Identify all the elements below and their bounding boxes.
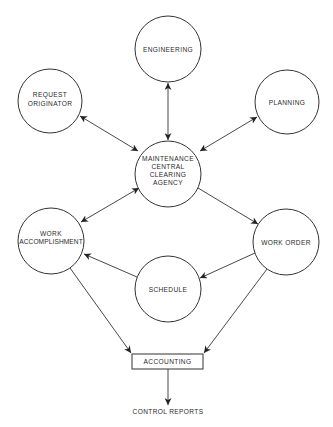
node-label: WORK ORDER xyxy=(261,239,311,246)
node-engineering: ENGINEERING xyxy=(135,16,201,82)
node-work-order: WORK ORDER xyxy=(253,209,319,275)
edge-request-originator-clearing-agency xyxy=(80,116,138,151)
node-label: PLANNING xyxy=(269,99,306,106)
maintenance-flow-diagram: ENGINEERING REQUEST ORIGINATOR PLANNING … xyxy=(0,0,333,427)
node-accounting: ACCOUNTING xyxy=(132,354,203,369)
node-work-accomplishment: WORK ACCOMPLISHMENT xyxy=(18,208,84,274)
node-schedule: SCHEDULE xyxy=(135,256,201,322)
node-label: ORIGINATOR xyxy=(28,100,73,107)
node-control-reports: CONTROL REPORTS xyxy=(133,408,204,415)
edge-work-order-accounting xyxy=(204,269,267,353)
node-label: SCHEDULE xyxy=(149,286,188,293)
node-label: CONTROL REPORTS xyxy=(133,408,204,415)
edge-work-order-schedule xyxy=(200,253,255,278)
node-label: REQUEST xyxy=(33,91,67,99)
node-planning: PLANNING xyxy=(255,70,319,134)
node-label: ACCOUNTING xyxy=(144,358,192,365)
node-label: ACCOMPLISHMENT xyxy=(19,238,83,245)
edge-schedule-work-accomplishment xyxy=(84,254,137,277)
node-label: AGENCY xyxy=(153,179,183,186)
node-label: WORK xyxy=(40,230,62,237)
edge-work-accomplishment-clearing-agency xyxy=(81,188,139,222)
edge-planning-clearing-agency xyxy=(200,117,257,151)
edge-work-accomplishment-accounting xyxy=(70,268,131,353)
edge-clearing-agency-work-order xyxy=(198,188,258,224)
node-label: CLEARING xyxy=(150,171,187,178)
node-label: ENGINEERING xyxy=(143,46,193,53)
node-label: MAINTENANCE xyxy=(142,155,194,162)
node-label: CENTRAL xyxy=(151,163,184,170)
node-clearing-agency: MAINTENANCE CENTRAL CLEARING AGENCY xyxy=(135,141,201,207)
node-request-originator: REQUEST ORIGINATOR xyxy=(18,69,82,133)
